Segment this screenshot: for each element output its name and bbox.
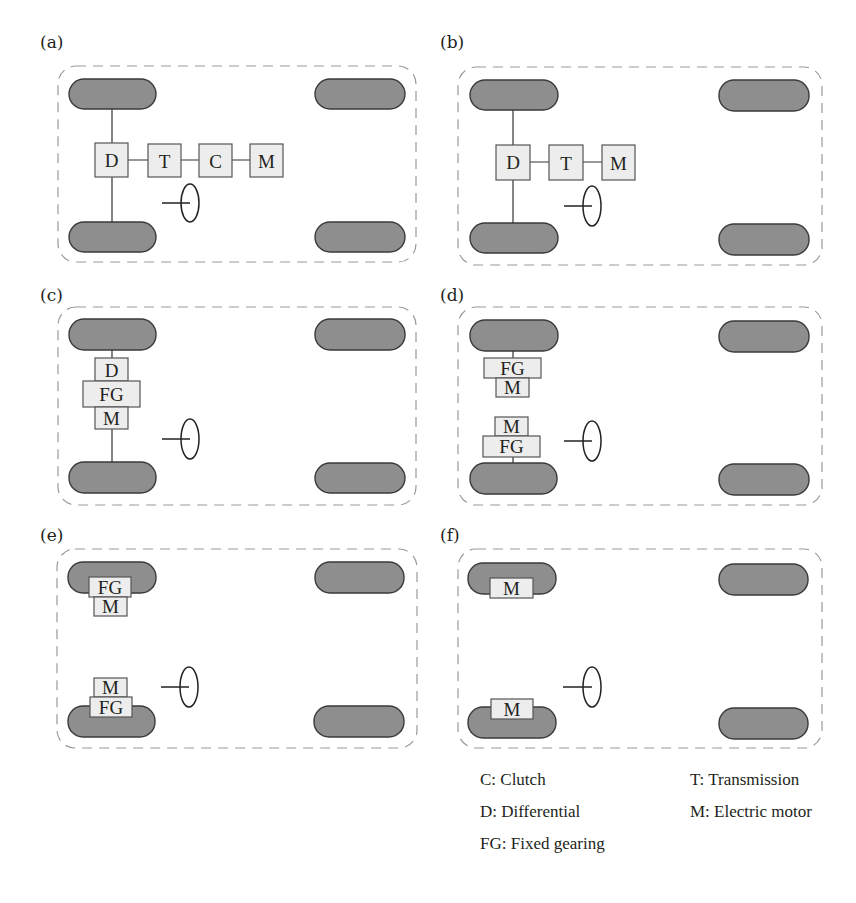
component-motor: M	[95, 407, 128, 429]
wheel-rear-left	[719, 564, 808, 595]
drivetrain-diagram: D FG M	[40, 285, 440, 525]
wheel-front-left	[69, 79, 156, 109]
wheel-rear-right	[719, 224, 809, 255]
component-fixed-gearing-upper: FG	[484, 358, 541, 379]
component-motor: M	[250, 144, 283, 177]
svg-text:FG: FG	[99, 697, 124, 718]
drivetrain-diagram: FG M M FG	[440, 285, 840, 525]
wheel-front-left	[470, 320, 558, 351]
wheel-rear-left	[315, 79, 405, 109]
svg-text:T: T	[560, 153, 572, 174]
component-fixed-gearing: FG	[83, 381, 140, 407]
legend-item-fixed-gearing: FG: Fixed gearing	[480, 834, 605, 854]
steering-wheel-icon	[162, 419, 199, 459]
wheel-rear-left	[315, 562, 404, 593]
panel-d: (d) FG M M FG	[440, 285, 840, 525]
svg-text:M: M	[504, 377, 521, 398]
wheel-front-left	[470, 80, 558, 110]
svg-text:M: M	[610, 153, 627, 174]
steering-wheel-icon	[161, 667, 198, 707]
svg-text:M: M	[503, 578, 520, 599]
component-fixed-gearing-lower: FG	[90, 697, 132, 718]
panel-a: (a) D T C M	[40, 32, 440, 272]
component-motor-lower: M	[491, 699, 533, 720]
legend-item-transmission: T: Transmission	[690, 770, 799, 790]
component-fixed-gearing-lower: FG	[483, 436, 540, 458]
wheel-rear-left	[719, 321, 809, 352]
svg-text:D: D	[506, 152, 520, 173]
svg-text:M: M	[102, 677, 119, 698]
panel-e: (e) FG M M FG	[40, 525, 440, 765]
drivetrain-diagram: D T C M	[40, 32, 440, 272]
component-transmission: T	[148, 144, 181, 177]
component-motor: M	[602, 145, 635, 180]
legend-item-electric-motor: M: Electric motor	[690, 802, 812, 822]
wheel-front-right	[470, 463, 557, 494]
wheel-rear-right	[315, 222, 405, 252]
wheel-rear-right	[719, 464, 809, 495]
legend-item-clutch: C: Clutch	[480, 770, 546, 790]
svg-text:M: M	[504, 699, 521, 720]
component-motor-upper: M	[496, 377, 529, 398]
svg-text:FG: FG	[500, 358, 525, 379]
wheel-rear-right	[719, 708, 808, 739]
steering-wheel-icon	[564, 186, 601, 226]
component-clutch: C	[199, 144, 232, 177]
svg-text:FG: FG	[98, 577, 123, 598]
component-fixed-gearing-upper: FG	[89, 577, 131, 598]
wheel-front-right	[470, 223, 558, 253]
svg-text:T: T	[159, 151, 171, 172]
wheel-rear-left	[719, 80, 809, 111]
svg-text:D: D	[105, 150, 119, 171]
drivetrain-diagram: M M	[440, 525, 840, 765]
steering-wheel-icon	[563, 667, 601, 707]
steering-wheel-icon	[564, 421, 601, 461]
svg-text:M: M	[503, 416, 520, 437]
wheel-front-right	[69, 222, 156, 252]
svg-text:FG: FG	[499, 436, 524, 457]
legend-item-differential: D: Differential	[480, 802, 580, 822]
wheel-front-right	[69, 462, 156, 493]
svg-text:M: M	[102, 596, 119, 617]
wheel-front-left	[69, 319, 156, 350]
wheel-rear-right	[315, 463, 405, 493]
svg-text:C: C	[209, 151, 222, 172]
svg-text:D: D	[105, 360, 119, 381]
component-motor-lower: M	[94, 677, 127, 698]
component-transmission: T	[549, 145, 583, 180]
component-differential: D	[95, 143, 128, 177]
component-differential: D	[496, 145, 530, 180]
svg-text:M: M	[103, 408, 120, 429]
component-motor-upper: M	[94, 596, 127, 617]
component-differential: D	[95, 358, 128, 381]
panel-b: (b) D T M	[440, 32, 840, 272]
drivetrain-diagram: D T M	[440, 32, 840, 272]
component-motor-lower: M	[495, 416, 528, 437]
steering-wheel-icon	[162, 184, 199, 222]
svg-text:M: M	[258, 151, 275, 172]
panel-f: (f) M M	[440, 525, 840, 765]
svg-text:FG: FG	[99, 384, 124, 405]
drivetrain-diagram: FG M M FG	[40, 525, 440, 765]
wheel-rear-left	[315, 319, 405, 350]
component-motor-upper: M	[490, 578, 533, 599]
panel-c: (c) D FG M	[40, 285, 440, 525]
wheel-rear-right	[314, 706, 404, 737]
